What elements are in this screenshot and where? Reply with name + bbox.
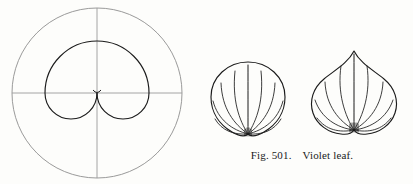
violet-leaf-pointed	[303, 46, 405, 146]
violet-leaf-rounded	[204, 56, 292, 146]
leaf-vein	[213, 101, 248, 134]
leaf-vein	[354, 66, 368, 130]
figure-title: Violet leaf.	[303, 149, 354, 161]
leaf-vein	[340, 66, 354, 130]
left-lower-lobe-arc	[45, 93, 97, 119]
figure-page: Fig. 501. Violet leaf.	[0, 0, 413, 184]
leaf-vein	[248, 71, 262, 134]
figure-number: Fig. 501.	[251, 149, 292, 161]
geometric-construction-diagram	[0, 0, 200, 184]
right-lower-lobe-arc	[97, 93, 149, 119]
leaf-vein	[234, 71, 248, 134]
leaf-vein	[248, 101, 283, 134]
figure-caption: Fig. 501. Violet leaf.	[232, 149, 372, 165]
